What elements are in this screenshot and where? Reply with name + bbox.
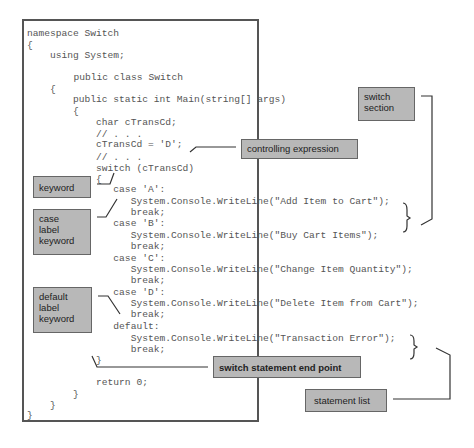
keyword-leader — [97, 173, 114, 184]
controlling-expression-leader — [190, 147, 236, 152]
leader-lines — [0, 0, 474, 448]
statement-list-brace — [410, 335, 417, 359]
case-label-leader — [97, 199, 117, 217]
switch-section-brace — [403, 203, 410, 232]
end-point-leader — [92, 356, 208, 367]
default-label-leader — [98, 296, 120, 314]
statement-list-leader — [393, 348, 450, 399]
switch-section-leader — [421, 96, 432, 225]
